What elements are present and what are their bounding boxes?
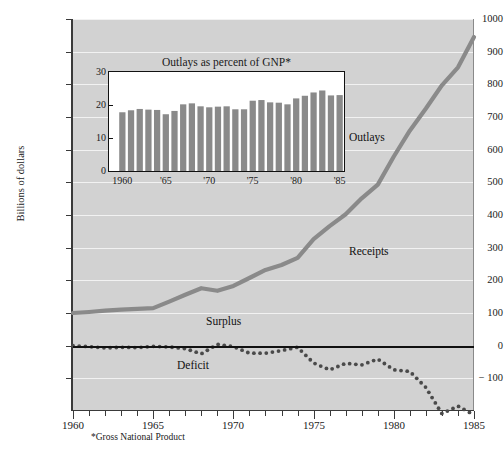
inset-bar (293, 98, 299, 171)
inset-bar (154, 110, 160, 171)
inset-bar (276, 103, 282, 171)
inset-bar (258, 100, 264, 171)
inset-bar (319, 90, 325, 171)
inset-x-tick-1980: '80 (276, 176, 316, 186)
inset-bar (302, 96, 308, 171)
inset-bar (180, 104, 186, 171)
inset-bar (163, 114, 169, 171)
inset-bar (328, 95, 334, 171)
inset-y-tick-0: 0 (84, 166, 106, 176)
inset-bar (119, 112, 125, 171)
footnote: *Gross National Product (91, 432, 185, 442)
inset-bar (128, 110, 134, 171)
inset-bar (241, 109, 247, 171)
inset-bar (137, 109, 143, 171)
inset-y-tick-30: 30 (84, 67, 106, 77)
inset-bar (145, 110, 151, 171)
inset-y-tick-20: 20 (84, 100, 106, 110)
inset-bar (206, 107, 212, 171)
inset-x-tick-1985: '85 (320, 176, 360, 186)
inset-x-tick-1970: '70 (189, 176, 229, 186)
inset-bar (224, 106, 230, 171)
inset-bar (250, 101, 256, 171)
inset-bar (197, 106, 203, 171)
inset-y-tick-10: 10 (84, 133, 106, 143)
inset-x-tick-1960: 1960 (102, 176, 142, 186)
inset-x-tick-1975: '75 (233, 176, 273, 186)
inset-x-tick-1965: '65 (146, 176, 186, 186)
inset-bar (232, 109, 238, 171)
inset-y-tick-mark-10 (108, 138, 113, 139)
inset-bar (171, 111, 177, 171)
inset-bar (189, 103, 195, 171)
inset-bar (284, 104, 290, 171)
inset-bar (337, 95, 343, 171)
inset-y-tick-mark-20 (108, 105, 113, 106)
inset-bar (267, 102, 273, 171)
inset-bar (215, 107, 221, 171)
inset-bar (310, 92, 316, 171)
